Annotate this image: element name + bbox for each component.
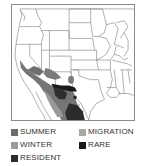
legend-item-rare: RARE [79, 140, 111, 150]
range-map [11, 4, 135, 121]
us-states-map [12, 5, 134, 120]
rare-swatch-icon [79, 142, 86, 149]
legend-label-resident: RESIDENT [20, 153, 61, 163]
legend-label-summer: SUMMER [20, 127, 56, 137]
winter-swatch-icon [11, 142, 18, 149]
legend-item-summer: SUMMER [11, 127, 56, 137]
map-legend: SUMMER MIGRATION WINTER RARE RESIDENT [11, 127, 141, 166]
legend-item-migration: MIGRATION [79, 127, 134, 137]
legend-label-rare: RARE [88, 140, 111, 150]
legend-item-winter: WINTER [11, 140, 52, 150]
legend-item-resident: RESIDENT [11, 153, 61, 163]
resident-swatch-icon [11, 155, 18, 162]
migration-swatch-icon [79, 129, 86, 136]
summer-swatch-icon [11, 129, 18, 136]
legend-label-migration: MIGRATION [88, 127, 134, 137]
legend-label-winter: WINTER [20, 140, 52, 150]
summer-patch-nm [68, 76, 74, 84]
